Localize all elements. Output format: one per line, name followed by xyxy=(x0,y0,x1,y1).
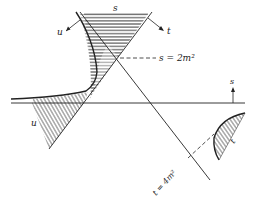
s-arrowhead-icon xyxy=(231,87,235,92)
t-channel-region xyxy=(214,113,245,160)
u-region-label: u xyxy=(31,118,37,128)
s-threshold-label: s = 2m² xyxy=(159,53,195,63)
u-channel-region xyxy=(32,92,88,149)
diagonal-line-1 xyxy=(80,12,210,180)
s-direction-label: s xyxy=(230,77,234,86)
u-arrowhead-icon xyxy=(66,27,71,32)
t-threshold-label: t = 4m² xyxy=(151,168,178,197)
s-channel-region-fill xyxy=(80,14,148,96)
s-region-label: s xyxy=(113,3,118,13)
t-threshold-dashed-line xyxy=(188,134,214,158)
mandelstam-diagram: u t s s = 2m² s u t t = 4m² xyxy=(0,0,256,209)
t-region-label: t xyxy=(228,137,238,145)
t-direction-label: t xyxy=(167,26,171,36)
u-direction-label: u xyxy=(57,27,63,37)
boundary-curve-left xyxy=(11,12,97,99)
